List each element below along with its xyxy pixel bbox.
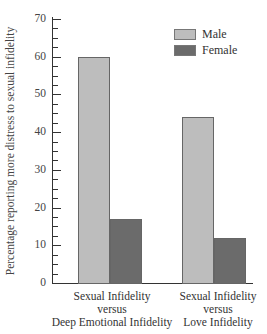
y-tick <box>53 66 58 67</box>
bar-female-2 <box>214 238 246 284</box>
y-tick <box>53 236 58 237</box>
bar-female-1 <box>110 219 142 284</box>
legend-label-female: Female <box>202 43 237 58</box>
y-tick <box>53 85 58 86</box>
y-tick <box>53 76 58 77</box>
y-tick-label: 60 <box>26 50 46 62</box>
y-axis-label: Percentage reporting more distress to se… <box>4 21 20 281</box>
y-tick-label: 70 <box>26 12 46 24</box>
y-tick <box>53 160 58 161</box>
y-tick-label: 0 <box>26 276 46 288</box>
y-tick <box>53 113 58 114</box>
y-tick <box>53 94 61 95</box>
category-label-1-line-1: Sexual Infidelity <box>50 290 174 303</box>
category-label-2-line-2: versus <box>168 303 267 316</box>
y-tick <box>53 245 61 246</box>
category-label-2-line-1: Sexual Infidelity <box>168 290 267 303</box>
y-tick <box>53 189 58 190</box>
y-tick-label: 40 <box>26 125 46 137</box>
y-tick <box>53 274 58 275</box>
y-tick <box>53 123 58 124</box>
y-tick <box>53 28 58 29</box>
y-tick <box>53 179 58 180</box>
y-tick <box>53 217 58 218</box>
legend-swatch-female <box>174 45 196 56</box>
y-tick <box>53 142 58 143</box>
bar-male-2 <box>182 117 214 284</box>
category-label-1: Sexual Infidelity versus Deep Emotional … <box>50 290 174 329</box>
category-label-1-line-3: Deep Emotional Infidelity <box>50 316 174 329</box>
y-tick <box>53 47 58 48</box>
y-tick-label: 30 <box>26 163 46 175</box>
y-tick <box>53 151 58 152</box>
legend-label-male: Male <box>202 27 227 42</box>
y-tick <box>53 19 61 20</box>
y-tick <box>53 198 58 199</box>
y-tick <box>53 132 61 133</box>
category-label-2-line-3: Love Infidelity <box>168 316 267 329</box>
y-tick-label: 20 <box>26 201 46 213</box>
y-tick-label: 50 <box>26 87 46 99</box>
category-label-1-line-2: versus <box>50 303 174 316</box>
bar-male-1 <box>78 57 110 284</box>
legend-swatch-male <box>174 29 196 40</box>
y-tick <box>53 283 61 284</box>
y-tick <box>53 104 58 105</box>
y-tick <box>53 264 58 265</box>
y-tick <box>53 38 58 39</box>
y-tick-label: 10 <box>26 238 46 250</box>
category-label-2: Sexual Infidelity versus Love Infidelity <box>168 290 267 329</box>
y-tick <box>53 226 58 227</box>
y-tick <box>53 57 61 58</box>
y-tick <box>53 208 61 209</box>
y-tick <box>53 255 58 256</box>
y-tick <box>53 170 61 171</box>
